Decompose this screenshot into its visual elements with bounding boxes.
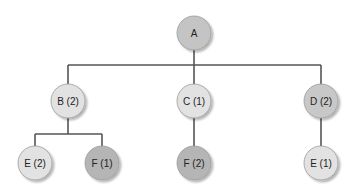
node-d-e-label: E (1) xyxy=(310,158,332,169)
node-c-f[interactable]: F (2) xyxy=(177,146,211,180)
node-a[interactable]: A xyxy=(177,16,211,50)
node-d-label: D (2) xyxy=(310,96,332,107)
node-b-e[interactable]: E (2) xyxy=(18,146,52,180)
node-d-e[interactable]: E (1) xyxy=(304,146,338,180)
node-c-label: C (1) xyxy=(183,96,205,107)
node-b[interactable]: B (2) xyxy=(51,84,85,118)
node-c-f-label: F (2) xyxy=(183,158,204,169)
node-b-f-label: F (1) xyxy=(91,158,112,169)
node-d[interactable]: D (2) xyxy=(304,84,338,118)
node-a-label: A xyxy=(191,28,198,39)
tree-diagram: A B (2) C (1) D (2) E (2) F (1) F (2) E … xyxy=(0,0,361,196)
node-b-e-label: E (2) xyxy=(24,158,46,169)
node-b-label: B (2) xyxy=(57,96,79,107)
node-c[interactable]: C (1) xyxy=(177,84,211,118)
node-b-f[interactable]: F (1) xyxy=(85,146,119,180)
